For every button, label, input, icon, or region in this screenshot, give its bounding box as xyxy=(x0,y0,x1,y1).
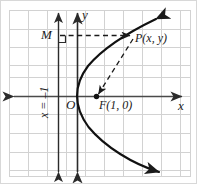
x-axis-label: x xyxy=(178,99,184,112)
origin-label: O xyxy=(66,98,75,111)
point-p-label: P(x, y) xyxy=(135,32,167,44)
parabola-figure: y x O M P(x, y) F(1, 0) x = –1 xyxy=(0,0,199,186)
point-m-label: M xyxy=(41,28,52,41)
focus-label: F(1, 0) xyxy=(99,99,132,111)
y-axis-label: y xyxy=(82,8,88,21)
right-angle-marker xyxy=(59,36,66,43)
figure-canvas xyxy=(0,0,199,186)
directrix-label: x = –1 xyxy=(38,87,50,118)
